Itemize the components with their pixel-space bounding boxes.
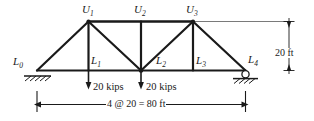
label-joint-u1: U1 <box>82 4 94 18</box>
label-joint-l3-sub: 3 <box>202 60 206 69</box>
support-pin-l0 <box>24 76 51 81</box>
dimension-height <box>284 18 295 74</box>
label-joint-l1-sub: 1 <box>97 60 101 69</box>
joint-u3 <box>191 19 195 23</box>
label-joint-l3: L3 <box>196 55 206 69</box>
support-roller-l4 <box>233 71 258 84</box>
label-joint-l4: L4 <box>248 54 258 68</box>
dimension-label-span: 4 @ 20 = 80 ft <box>106 99 166 109</box>
label-joint-u3-sub: 3 <box>194 9 198 18</box>
load-label-l2: 20 kips <box>146 82 177 93</box>
dimension-label-height: 20 ft <box>274 48 295 58</box>
label-joint-l2: L2 <box>156 55 166 69</box>
label-joint-u2-sub: 2 <box>142 9 146 18</box>
truss-diagram-figure: U1 U2 U3 L0 L1 L2 L3 L4 20 kips 20 kips … <box>0 0 314 121</box>
label-joint-l0: L0 <box>13 56 23 70</box>
label-joint-u1-text: U <box>82 3 90 15</box>
member-diagonal-l2-u3 <box>141 22 193 71</box>
load-label-l1: 20 kips <box>93 82 124 93</box>
label-joint-l1: L1 <box>91 55 101 69</box>
joint-u1 <box>86 19 90 23</box>
load-arrow-l2 <box>138 71 144 90</box>
label-joint-u2-text: U <box>134 3 142 15</box>
label-joint-u3: U3 <box>186 4 198 18</box>
label-joint-u3-text: U <box>186 3 194 15</box>
label-joint-l2-sub: 2 <box>162 60 166 69</box>
load-arrow-l1 <box>86 71 92 90</box>
label-joint-l4-sub: 4 <box>254 59 258 68</box>
label-joint-u2: U2 <box>134 4 146 18</box>
label-joint-u1-sub: 1 <box>90 9 94 18</box>
member-diagonal-l0-u1 <box>37 22 89 71</box>
label-joint-l0-sub: 0 <box>19 61 23 70</box>
